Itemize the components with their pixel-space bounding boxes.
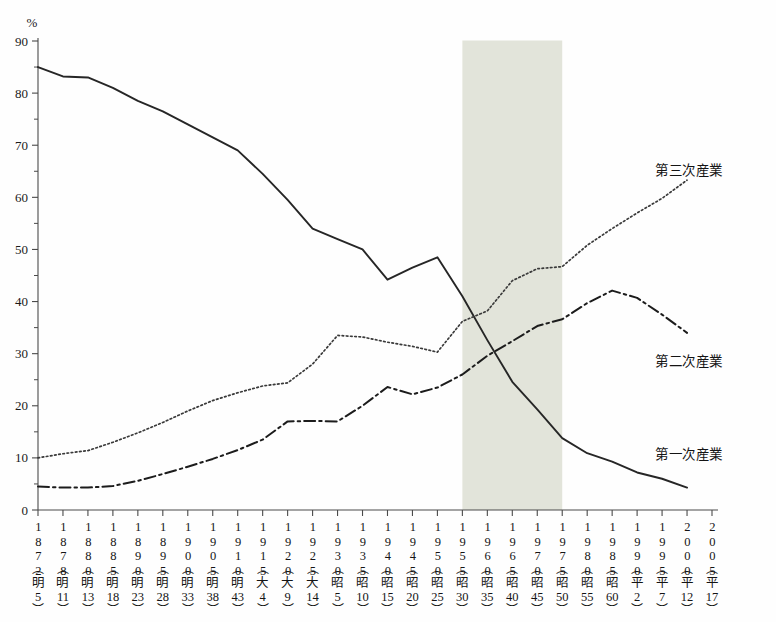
x-tick-label-1895: 1895︵明28︶	[152, 520, 174, 618]
x-tick-year: 2000	[681, 520, 694, 554]
x-tick-year: 1935	[356, 520, 369, 554]
x-tick-era: ︵平7︶	[651, 563, 673, 618]
x-tick-label-1920: 1920︵大9︶	[277, 520, 299, 618]
series-line-secondary	[38, 291, 687, 488]
x-tick-year: 1965	[506, 520, 519, 554]
x-tick-year: 2005	[706, 520, 719, 554]
y-tick-label: 20	[15, 398, 28, 413]
x-tick-era: ︵大4︶	[252, 563, 274, 618]
x-tick-year: 1990	[631, 520, 644, 554]
y-tick-label: 40	[15, 294, 28, 309]
x-tick-year: 1878	[57, 520, 70, 554]
x-tick-era: ︵明33︶	[177, 563, 199, 618]
x-tick-label-1990: 1990︵平2︶	[626, 520, 648, 618]
x-tick-era: ︵昭55︶	[576, 563, 598, 618]
x-tick-year: 1885	[107, 520, 120, 554]
chart-page: 0102030405060708090%第三次産業第二次産業第一次産業 1872…	[0, 0, 776, 622]
x-tick-era: ︵大14︶	[302, 563, 324, 618]
x-tick-era: ︵昭30︶	[451, 563, 473, 618]
x-tick-label-1880: 1880︵明13︶	[77, 520, 99, 618]
x-tick-year: 1970	[531, 520, 544, 554]
y-tick-label: 80	[15, 86, 28, 101]
x-tick-label-1955: 1955︵昭30︶	[451, 520, 473, 618]
x-tick-label-1885: 1885︵明18︶	[102, 520, 124, 618]
x-tick-era: ︵明18︶	[102, 563, 124, 618]
x-tick-year: 1945	[406, 520, 419, 554]
x-tick-label-1985: 1985︵昭60︶	[601, 520, 623, 618]
x-tick-era: ︵昭10︶	[352, 563, 374, 618]
x-tick-label-1915: 1915︵大4︶	[252, 520, 274, 618]
x-tick-era: ︵昭15︶	[376, 563, 398, 618]
x-tick-era: ︵昭60︶	[601, 563, 623, 618]
y-tick-label: 10	[15, 450, 28, 465]
x-tick-era: ︵平17︶	[701, 563, 723, 618]
x-tick-label-2005: 2005︵平17︶	[701, 520, 723, 618]
x-tick-label-1960: 1960︵昭35︶	[476, 520, 498, 618]
x-tick-era: ︵昭25︶	[426, 563, 448, 618]
y-tick-label: 60	[15, 190, 28, 205]
x-tick-year: 1880	[82, 520, 95, 554]
x-tick-year: 1930	[331, 520, 344, 554]
x-tick-label-1940: 1940︵昭15︶	[376, 520, 398, 618]
x-tick-era: ︵昭5︶	[327, 563, 349, 618]
x-tick-label-2000: 2000︵平12︶	[676, 520, 698, 618]
x-tick-era: ︵明43︶	[227, 563, 249, 618]
x-tick-year: 1900	[181, 520, 194, 554]
series-label-tertiary: 第三次産業	[655, 162, 723, 178]
x-tick-label-1995: 1995︵平7︶	[651, 520, 673, 618]
y-tick-label: 70	[15, 138, 28, 153]
series-label-secondary: 第二次産業	[655, 353, 723, 369]
x-tick-year: 1980	[581, 520, 594, 554]
highlight-band-1955-1975	[462, 41, 562, 511]
x-tick-year: 1915	[256, 520, 269, 554]
x-tick-label-1975: 1975︵昭50︶	[551, 520, 573, 618]
x-tick-era: ︵平12︶	[676, 563, 698, 618]
x-tick-year: 1895	[156, 520, 169, 554]
x-tick-label-1900: 1900︵明33︶	[177, 520, 199, 618]
y-axis-unit-label: %	[27, 15, 38, 30]
x-tick-label-1935: 1935︵昭10︶	[352, 520, 374, 618]
x-tick-era: ︵昭45︶	[526, 563, 548, 618]
x-tick-year: 1872	[32, 520, 45, 554]
x-tick-era: ︵大9︶	[277, 563, 299, 618]
x-tick-era: ︵昭40︶	[501, 563, 523, 618]
x-tick-year: 1975	[556, 520, 569, 554]
x-tick-era: ︵昭35︶	[476, 563, 498, 618]
x-tick-label-1945: 1945︵昭20︶	[401, 520, 423, 618]
x-tick-era: ︵明38︶	[202, 563, 224, 618]
x-tick-year: 1925	[306, 520, 319, 554]
x-tick-year: 1955	[456, 520, 469, 554]
y-tick-label: 0	[22, 503, 29, 518]
x-tick-year: 1950	[431, 520, 444, 554]
x-tick-label-1878: 1878︵明11︶	[52, 520, 74, 618]
series-label-primary: 第一次産業	[655, 446, 723, 462]
x-tick-label-1872: 1872︵明5︶	[27, 520, 49, 618]
x-tick-era: ︵明5︶	[27, 563, 49, 618]
x-tick-era: ︵昭20︶	[401, 563, 423, 618]
x-tick-label-1970: 1970︵昭45︶	[526, 520, 548, 618]
x-tick-era: ︵明11︶	[52, 563, 74, 618]
x-tick-label-1930: 1930︵昭5︶	[327, 520, 349, 618]
x-tick-label-1890: 1890︵明23︶	[127, 520, 149, 618]
x-tick-label-1925: 1925︵大14︶	[302, 520, 324, 618]
x-tick-label-1965: 1965︵昭40︶	[501, 520, 523, 618]
x-tick-year: 1985	[606, 520, 619, 554]
y-tick-label: 90	[15, 34, 28, 49]
x-tick-era: ︵明13︶	[77, 563, 99, 618]
series-line-primary	[38, 67, 687, 488]
x-tick-label-1910: 1910︵明43︶	[227, 520, 249, 618]
x-tick-year: 1920	[281, 520, 294, 554]
x-tick-year: 1890	[131, 520, 144, 554]
x-tick-year: 1910	[231, 520, 244, 554]
x-tick-era: ︵明23︶	[127, 563, 149, 618]
x-tick-year: 1995	[656, 520, 669, 554]
x-tick-label-1905: 1905︵明38︶	[202, 520, 224, 618]
x-tick-year: 1940	[381, 520, 394, 554]
x-tick-year: 1905	[206, 520, 219, 554]
x-tick-era: ︵明28︶	[152, 563, 174, 618]
x-tick-label-1950: 1950︵昭25︶	[426, 520, 448, 618]
x-tick-year: 1960	[481, 520, 494, 554]
y-tick-label: 50	[15, 242, 28, 257]
x-tick-era: ︵平2︶	[626, 563, 648, 618]
x-tick-label-1980: 1980︵昭55︶	[576, 520, 598, 618]
